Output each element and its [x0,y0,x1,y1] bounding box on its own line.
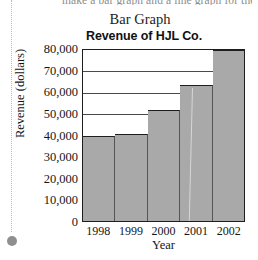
y-axis-title: Revenue (dollars) [13,39,28,149]
y-tick-label: 80,000 [44,42,78,57]
y-tick-label: 70,000 [44,63,78,78]
bar-2002 [213,50,244,221]
y-tick-label: 60,000 [44,85,78,100]
x-tick-label: 1999 [115,224,148,239]
y-tick-label: 10,000 [44,193,78,208]
bar-2001 [180,85,212,221]
bar-1998 [83,136,115,222]
chart-title: Revenue of HJL Co. [0,29,258,43]
x-tick-label: 2000 [147,224,180,239]
plot-area [82,49,245,222]
x-axis-tick-labels: 19981999200020012002 [82,224,245,239]
y-axis-tick-labels: 010,00020,00030,00040,00050,00060,00070,… [28,49,78,222]
bar-1999 [115,134,147,221]
y-tick-label: 40,000 [44,128,78,143]
bar-series [83,50,244,221]
figure-caption: Bar Graph [0,11,258,28]
x-axis-title: Year [82,238,245,253]
x-tick-label: 1998 [82,224,115,239]
page-bullet-marker [7,236,17,246]
y-tick-label: 30,000 [44,150,78,165]
x-tick-label: 2002 [212,224,245,239]
scan-streak [189,88,194,221]
cut-off-page-text: make a bar graph and a line graph for th… [62,0,252,5]
y-tick-label: 20,000 [44,171,78,186]
y-tick-label: 50,000 [44,106,78,121]
y-tick-label: 0 [72,215,78,230]
x-tick-label: 2001 [180,224,213,239]
bar-2000 [148,110,180,221]
